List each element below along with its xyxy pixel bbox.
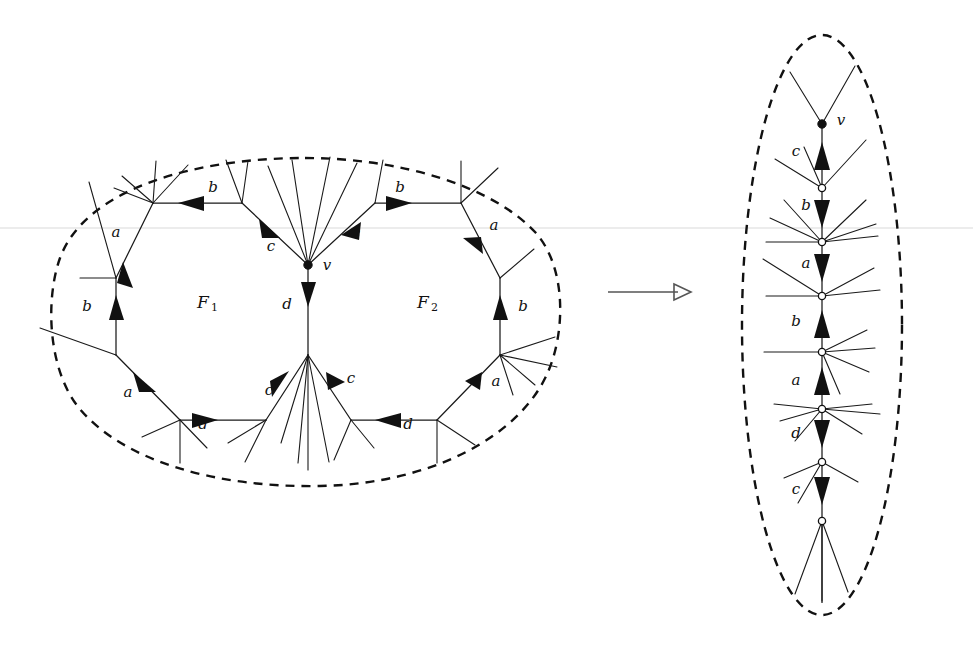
right-edge-label-a2: a <box>792 371 801 389</box>
arrowhead-top-right-b <box>386 196 412 211</box>
edge-label-upper-inner-right-c: c <box>352 224 361 242</box>
arrowhead-lower-left-a <box>133 372 156 392</box>
arrowhead-left-b <box>109 295 124 320</box>
edge-upper-inner-right-c <box>308 203 375 265</box>
edge-label-upper-inner-left-c: c <box>267 237 276 255</box>
center-vertex-fan <box>268 157 357 265</box>
face-label-F1-letter: F <box>196 292 210 312</box>
spine-node-1[interactable] <box>818 184 825 191</box>
figure-canvas: b a b a d c c d c b a b a d c v F 1 F 2 <box>0 0 973 647</box>
right-edge-label-b2: b <box>791 312 801 330</box>
arrowhead-upper-right-a <box>463 237 483 254</box>
arrowhead-top-left-b <box>178 196 204 211</box>
edge-label-right-b: b <box>518 297 528 315</box>
edge-label-center-d: d <box>282 295 292 313</box>
right-edge-label-b1: b <box>801 196 811 214</box>
arrowhead-bottom-right-c <box>326 372 345 390</box>
arrowhead-right-a1-down <box>814 254 830 282</box>
edge-label-upper-left-a: a <box>112 223 121 241</box>
node-twigs-upper-left-mid <box>226 160 248 203</box>
node-twigs-bottom-right <box>437 420 475 463</box>
arrowhead-lower-right-a <box>465 372 482 390</box>
arrowhead-right-a2-up <box>814 367 830 395</box>
right-edge-label-d: d <box>791 424 801 442</box>
face-label-F1-subscript: 1 <box>211 301 218 314</box>
node-twigs-upper-right-mid <box>375 160 383 203</box>
arrowhead-right-c1-up <box>814 142 830 170</box>
node-twigs-right-lower <box>500 337 557 395</box>
vertex-label-v-right: v <box>837 111 846 129</box>
edge-label-bottom-right-c: c <box>347 369 356 387</box>
spine-node-6[interactable] <box>818 458 825 465</box>
spine-node-4[interactable] <box>818 348 825 355</box>
node-twigs-left-lower <box>40 328 116 355</box>
edge-label-top-right-b: b <box>395 178 405 196</box>
spine-node-7[interactable] <box>818 517 825 524</box>
edge-label-upper-right-a: a <box>490 216 499 234</box>
left-region-boundary <box>51 158 560 486</box>
right-top-fan <box>790 66 855 124</box>
vertex-v-right[interactable] <box>818 120 826 128</box>
arrowhead-center-d <box>301 282 316 307</box>
node-twigs-bottom-right-mid <box>334 420 374 460</box>
arrowhead-upper-left-a <box>117 262 133 288</box>
arrowhead-right-b1-down <box>814 200 830 228</box>
maps-to-arrow <box>608 284 691 300</box>
face-label-F2-subscript: 2 <box>431 301 438 314</box>
face-label-F1: F 1 <box>196 292 218 315</box>
face-label-F2-letter: F <box>416 292 430 312</box>
arrowhead-right-b2-up <box>814 310 830 338</box>
right-panel: v c b a b a d c <box>742 35 902 615</box>
vertex-v-left[interactable] <box>304 261 312 269</box>
right-node-fan-7 <box>795 521 848 601</box>
spine-node-2[interactable] <box>818 238 825 245</box>
spine-node-3[interactable] <box>818 292 825 299</box>
edge-label-bottom-left-d: d <box>198 415 208 433</box>
node-twigs-top-right <box>461 161 498 203</box>
node-twigs-bottom-left-mid <box>228 420 266 462</box>
arrowhead-right-b <box>493 295 508 320</box>
edge-label-bottom-left-c: c <box>265 381 274 399</box>
edge-label-bottom-right-d: d <box>403 415 413 433</box>
edge-label-lower-left-a: a <box>124 383 133 401</box>
diagram-svg: b a b a d c c d c b a b a d c v F 1 F 2 <box>0 0 973 647</box>
spine-node-5[interactable] <box>818 405 825 412</box>
right-edge-label-a1: a <box>802 254 811 272</box>
arrowhead-right-d-down <box>814 420 830 448</box>
left-panel: b a b a d c c d c b a b a d c v F 1 F 2 <box>40 157 560 486</box>
vertex-label-v-left: v <box>323 256 332 274</box>
edge-label-lower-right-a: a <box>492 372 501 390</box>
arrowhead-bottom-right-d <box>375 413 401 428</box>
face-label-F2: F 2 <box>416 292 438 315</box>
node-twigs-right-upper <box>500 249 534 278</box>
right-edge-label-c2: c <box>792 480 801 498</box>
edge-label-left-b: b <box>82 297 92 315</box>
lower-hub-fan <box>281 355 329 470</box>
arrowhead-right-c2-down <box>814 477 830 505</box>
edge-label-top-left-b: b <box>208 178 218 196</box>
right-edge-label-c1: c <box>792 142 801 160</box>
edge-upper-left-a <box>116 203 153 278</box>
